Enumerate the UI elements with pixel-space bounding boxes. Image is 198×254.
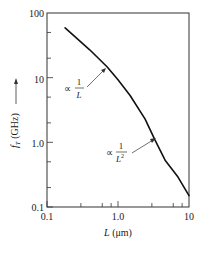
y-axis-arrow-icon [14, 78, 18, 104]
x-tick-label-0.1: 0.1 [41, 211, 54, 222]
x-tick-label-10: 10 [184, 211, 194, 222]
y-axis-ticks [47, 32, 53, 207]
y-tick-label-1: 1.0 [32, 138, 45, 149]
x-axis-ticks [47, 201, 182, 207]
x-tick-label-1: 1.0 [112, 211, 125, 222]
ann2-numerator: 1 [119, 141, 124, 151]
x-axis-title: L (μm) [103, 227, 132, 239]
proportional-icon: ∝ [64, 83, 71, 94]
annotation-inverse-L-squared: ∝ 1 L2 [106, 138, 157, 164]
ann2-denominator: L2 [115, 153, 124, 164]
y-axis-unit: (GHz) [9, 113, 21, 141]
y-tick-label-10: 10 [34, 74, 44, 85]
ann2-arrow-icon [132, 140, 153, 153]
data-curve [65, 28, 189, 196]
y-tick-label-100: 100 [29, 8, 44, 19]
ann1-arrow-icon [87, 70, 104, 87]
y-axis-title: fT (GHz) [9, 113, 22, 148]
x-axis-unit: (μm) [110, 227, 132, 239]
svg-text:fT (GHz): fT (GHz) [9, 113, 22, 148]
ann1-numerator: 1 [77, 77, 82, 87]
chart: 100 10 1.0 0.1 0.1 1.0 10 L (μm) fT (GHz… [0, 0, 198, 254]
annotation-inverse-L: ∝ 1 L [64, 68, 107, 100]
ann1-denominator: L [75, 90, 81, 100]
plot-frame [47, 13, 189, 207]
proportional-icon: ∝ [106, 147, 113, 158]
